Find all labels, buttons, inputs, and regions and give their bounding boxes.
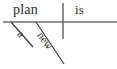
subject-word-label: plan (13, 3, 38, 17)
verb-word-label: is (75, 3, 84, 16)
sentence-diagram: plan is a new (0, 0, 117, 69)
